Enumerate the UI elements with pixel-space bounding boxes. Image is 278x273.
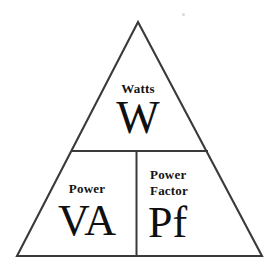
cell-watts: Watts W xyxy=(94,76,182,146)
cell-power: Power VA xyxy=(40,172,134,252)
cell-power-factor: Power Factor Pf xyxy=(140,160,230,252)
cell-power-factor-label: Power Factor xyxy=(144,167,188,199)
cell-power-label: Power xyxy=(69,181,105,196)
power-triangle-diagram: Watts W Power VA Power Factor Pf xyxy=(0,0,278,273)
cell-power-symbol: VA xyxy=(58,199,116,243)
scan-artifact-speck xyxy=(182,13,185,16)
cell-power-factor-symbol: Pf xyxy=(144,201,187,245)
cell-watts-symbol: W xyxy=(116,95,159,141)
